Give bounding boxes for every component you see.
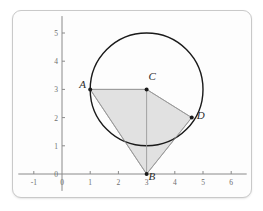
x-tick-label: 6 <box>229 178 233 187</box>
y-tick-label: 3 <box>54 85 58 94</box>
point-label-d: D <box>197 109 205 121</box>
y-tick-label: 5 <box>54 29 58 38</box>
point-label-b: B <box>149 170 156 182</box>
point-A[interactable] <box>88 87 92 91</box>
point-D[interactable] <box>190 116 194 120</box>
x-tick-label: 5 <box>201 178 205 187</box>
x-tick-label: 0 <box>60 178 64 187</box>
point-label-a: A <box>79 78 86 90</box>
y-tick-label: 4 <box>54 57 58 66</box>
point-C[interactable] <box>145 87 149 91</box>
x-tick-label: 2 <box>117 178 121 187</box>
point-label-c: C <box>149 70 156 82</box>
y-tick-label: 2 <box>54 113 58 122</box>
coordinate-plot <box>0 0 263 211</box>
y-tick-label: 0 <box>54 170 58 179</box>
x-tick-label: 4 <box>173 178 177 187</box>
y-tick-label: 1 <box>54 141 58 150</box>
shaded-region <box>90 89 192 174</box>
x-tick-label: 1 <box>88 178 92 187</box>
x-tick-label: -1 <box>31 178 37 187</box>
figure-canvas: -10123456012345ACDB <box>0 0 263 211</box>
